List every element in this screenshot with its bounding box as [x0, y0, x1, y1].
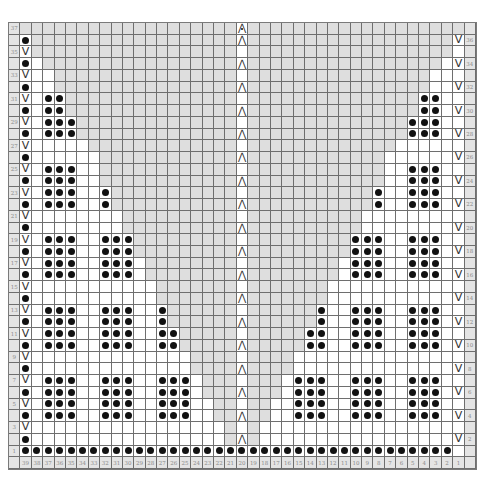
double-decrease-icon: ⋀: [238, 340, 246, 350]
purl-dot-icon: [56, 318, 63, 325]
column-label: 25: [180, 457, 191, 469]
purl-dot-icon: [45, 130, 52, 137]
stitch-cell: [373, 269, 384, 281]
stitch-cell: [362, 223, 373, 235]
stitch-cell: [112, 363, 123, 375]
stitch-cell: [214, 363, 225, 375]
stitch-cell: [146, 434, 157, 446]
purl-dot-icon: [79, 447, 86, 454]
stitch-cell: [305, 375, 316, 387]
stitch-cell: [66, 328, 77, 340]
purl-dot-icon: [22, 224, 29, 231]
stitch-cell: V: [453, 223, 464, 235]
stitch-cell: [203, 434, 214, 446]
purl-dot-icon: [409, 342, 416, 349]
stitch-cell: [32, 434, 43, 446]
stitch-cell: [146, 269, 157, 281]
stitch-cell: [396, 281, 407, 293]
stitch-cell: [339, 164, 350, 176]
purl-dot-icon: [432, 447, 439, 454]
slip-stitch-icon: V: [22, 235, 30, 245]
purl-dot-icon: [56, 447, 63, 454]
stitch-cell: [237, 140, 248, 152]
stitch-cell: ⋀: [237, 105, 248, 117]
stitch-cell: [180, 70, 191, 82]
stitch-cell: [66, 422, 77, 434]
stitch-cell: [430, 246, 441, 258]
stitch-cell: [100, 281, 111, 293]
slip-stitch-icon: V: [455, 293, 463, 303]
stitch-cell: [100, 211, 111, 223]
stitch-cell: [191, 328, 202, 340]
stitch-cell: [191, 422, 202, 434]
purl-dot-icon: [375, 307, 382, 314]
stitch-cell: [43, 410, 54, 422]
stitch-cell: [328, 387, 339, 399]
stitch-cell: [339, 422, 350, 434]
stitch-cell: [294, 422, 305, 434]
stitch-cell: [373, 46, 384, 58]
stitch-cell: [43, 117, 54, 129]
double-decrease-icon: ⋀: [238, 223, 246, 233]
stitch-cell: [55, 117, 66, 129]
stitch-cell: [157, 422, 168, 434]
stitch-cell: [385, 305, 396, 317]
stitch-cell: [442, 387, 453, 399]
stitch-cell: [214, 23, 225, 35]
stitch-cell: [385, 293, 396, 305]
row-label-right: [465, 446, 476, 458]
stitch-cell: [100, 117, 111, 129]
stitch-cell: [408, 234, 419, 246]
stitch-cell: [225, 246, 236, 258]
stitch-cell: [317, 246, 328, 258]
purl-dot-icon: [102, 412, 109, 419]
stitch-cell: [305, 387, 316, 399]
slip-stitch-icon: V: [455, 223, 463, 233]
stitch-cell: [89, 93, 100, 105]
stitch-cell: [260, 293, 271, 305]
purl-dot-icon: [216, 447, 223, 454]
stitch-cell: [146, 199, 157, 211]
stitch-cell: [453, 281, 464, 293]
knitting-chart-grid: 37⋀⋀V3635V⋀V3433V⋀V3231V⋀V3029V⋀V2827V⋀V…: [8, 22, 477, 470]
stitch-cell: [180, 446, 191, 458]
purl-dot-icon: [375, 248, 382, 255]
stitch-cell: [55, 293, 66, 305]
stitch-cell: [408, 281, 419, 293]
column-label: 9: [362, 457, 373, 469]
stitch-cell: [271, 58, 282, 70]
purl-dot-icon: [387, 447, 394, 454]
stitch-cell: [271, 328, 282, 340]
stitch-cell: [134, 164, 145, 176]
stitch-cell: [373, 176, 384, 188]
stitch-cell: [214, 422, 225, 434]
stitch-cell: ⋀: [237, 35, 248, 47]
purl-dot-icon: [45, 318, 52, 325]
stitch-cell: [180, 375, 191, 387]
stitch-cell: [55, 46, 66, 58]
stitch-cell: [328, 305, 339, 317]
stitch-cell: [112, 93, 123, 105]
column-label: 35: [66, 457, 77, 469]
stitch-cell: [442, 258, 453, 270]
stitch-cell: [112, 269, 123, 281]
stitch-cell: [294, 246, 305, 258]
purl-dot-icon: [352, 330, 359, 337]
stitch-cell: [248, 363, 259, 375]
stitch-cell: [157, 316, 168, 328]
stitch-cell: [66, 35, 77, 47]
column-label: 23: [203, 457, 214, 469]
stitch-cell: [430, 399, 441, 411]
stitch-cell: [419, 422, 430, 434]
row-label-right: [465, 140, 476, 152]
stitch-cell: [328, 375, 339, 387]
purl-dot-icon: [125, 400, 132, 407]
stitch-cell: [294, 375, 305, 387]
purl-dot-icon: [444, 447, 451, 454]
purl-dot-icon: [159, 318, 166, 325]
stitch-cell: [396, 176, 407, 188]
stitch-cell: [362, 93, 373, 105]
stitch-cell: [100, 23, 111, 35]
stitch-cell: [134, 187, 145, 199]
stitch-cell: [134, 58, 145, 70]
